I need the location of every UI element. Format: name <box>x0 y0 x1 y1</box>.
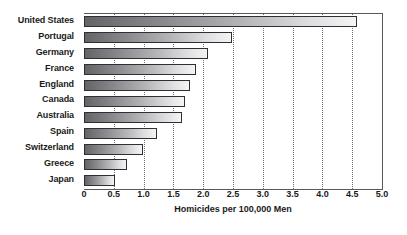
x-tick-label: 2.5 <box>227 189 240 199</box>
x-tick-label: 0.5 <box>108 189 121 199</box>
bar-row <box>84 157 382 173</box>
category-label: Germany <box>0 45 79 61</box>
x-tick-label: 4.5 <box>346 189 359 199</box>
value-axis-ticks: 00.51.01.52.02.53.03.54.04.55.0 <box>84 189 384 205</box>
bar-row <box>84 78 382 94</box>
bar <box>84 112 182 123</box>
category-label: Spain <box>0 124 79 140</box>
bar <box>84 32 232 43</box>
bar <box>84 96 185 107</box>
bar <box>84 80 190 91</box>
bar-row <box>84 141 382 157</box>
x-axis-title: Homicides per 100,000 Men <box>84 204 382 214</box>
x-tick-label: 1.0 <box>137 189 150 199</box>
bar-row <box>84 109 382 125</box>
bar <box>84 64 196 75</box>
bar-row <box>84 30 382 46</box>
bar <box>84 144 143 155</box>
x-tick-label: 2.0 <box>197 189 210 199</box>
category-label: Switzerland <box>0 140 79 156</box>
category-axis-labels: United StatesPortugalGermanyFranceEnglan… <box>0 13 79 188</box>
category-label: Portugal <box>0 29 79 45</box>
bar-row <box>84 62 382 78</box>
x-tick-label: 1.5 <box>167 189 180 199</box>
bar <box>84 16 357 27</box>
bar <box>84 175 115 186</box>
bar-row <box>84 125 382 141</box>
bar-row <box>84 46 382 62</box>
bar <box>84 48 208 59</box>
x-tick-label: 3.0 <box>257 189 270 199</box>
bar-row <box>84 93 382 109</box>
category-label: France <box>0 61 79 77</box>
bar-row <box>84 14 382 30</box>
category-label: Japan <box>0 172 79 188</box>
bar <box>84 128 157 139</box>
bar-row <box>84 173 382 189</box>
category-label: Greece <box>0 156 79 172</box>
category-label: Canada <box>0 92 79 108</box>
category-label: Australia <box>0 108 79 124</box>
category-label: United States <box>0 13 79 29</box>
bar-series <box>84 14 382 189</box>
x-tick-label: 0 <box>81 189 86 199</box>
bar <box>84 159 127 170</box>
x-tick-label: 5.0 <box>376 189 389 199</box>
horizontal-bar-chart: United StatesPortugalGermanyFranceEnglan… <box>0 0 407 235</box>
category-label: England <box>0 77 79 93</box>
plot-area <box>84 13 383 190</box>
x-tick-label: 4.0 <box>316 189 329 199</box>
x-tick-label: 3.5 <box>286 189 299 199</box>
